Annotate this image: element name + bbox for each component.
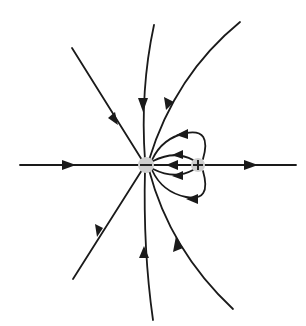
field-line-right-horizontal xyxy=(205,160,296,170)
positive-charge xyxy=(191,158,205,172)
field-line-center xyxy=(152,160,191,170)
field-line-diagram xyxy=(0,0,306,326)
negative-charge xyxy=(138,157,154,173)
field-line-loop-bottom-inner xyxy=(153,169,193,180)
field-line-lower-right xyxy=(149,170,233,309)
field-line-loop-top-inner xyxy=(153,150,193,161)
field-line-lower-middle xyxy=(139,170,153,320)
field-line-upper-middle xyxy=(138,25,154,160)
field-line-upper-right xyxy=(149,22,240,160)
field-line-lower-left xyxy=(73,170,142,279)
field-line-left-horizontal xyxy=(20,160,140,170)
field-line-upper-left xyxy=(72,48,142,160)
